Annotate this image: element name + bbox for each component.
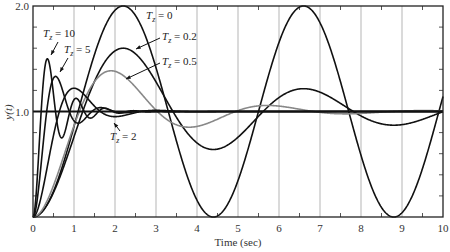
arrow-line — [126, 63, 160, 79]
annotation-label: Tz = 0.2 — [162, 30, 197, 45]
x-tick-label: 9 — [399, 222, 405, 234]
y-axis-title: y(t) — [2, 104, 15, 121]
annotation-label: Tz = 2 — [110, 130, 136, 145]
x-tick-label: 7 — [317, 222, 323, 234]
x-tick-label: 1 — [71, 222, 77, 234]
annotation-label: Tz = 0 — [146, 9, 173, 24]
annotation-label: Tz = 5 — [64, 43, 91, 58]
x-tick-label: 10 — [438, 222, 450, 234]
x-tick-label: 6 — [276, 222, 282, 234]
annotation-label: Tz = 10 — [43, 27, 75, 42]
x-axis-title: Time (sec) — [215, 236, 262, 249]
step-response-chart: 012345678910 2.01.0 Tz = 10Tz = 5Tz = 0T… — [0, 0, 450, 252]
x-tick-label: 5 — [235, 222, 241, 234]
x-tick-label: 3 — [153, 222, 159, 234]
y-tick-label: 2.0 — [15, 0, 29, 12]
annotation-label: Tz = 0.5 — [162, 55, 197, 70]
x-tick-label: 2 — [112, 222, 118, 234]
y-tick-label: 1.0 — [15, 106, 29, 118]
x-tick-label: 0 — [30, 222, 36, 234]
x-tick-label: 4 — [194, 222, 200, 234]
x-tick-labels: 012345678910 — [30, 222, 449, 234]
y-tick-labels: 2.01.0 — [15, 0, 29, 118]
x-tick-label: 8 — [358, 222, 364, 234]
